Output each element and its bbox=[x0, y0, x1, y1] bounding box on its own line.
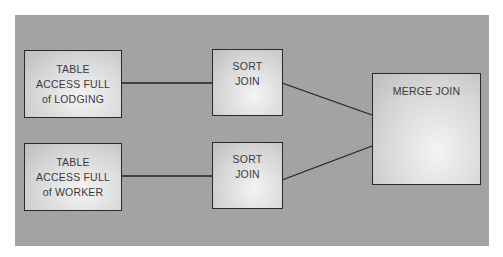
node-label-line: of LODGING bbox=[42, 93, 104, 105]
edge-sort1-to-merge bbox=[282, 83, 372, 115]
node-label-line: JOIN bbox=[235, 168, 260, 180]
node-label-line: ACCESS FULL bbox=[36, 78, 110, 90]
edge-sort2-to-merge bbox=[282, 146, 372, 180]
node-label-line: TABLE bbox=[56, 156, 89, 168]
node-table-access-lodging: TABLE ACCESS FULL of LODGING bbox=[24, 50, 122, 118]
node-sort-join-1: SORT JOIN bbox=[212, 49, 283, 116]
node-merge-join: MERGE JOIN bbox=[372, 73, 481, 185]
node-label-line: SORT bbox=[233, 153, 263, 165]
node-label-line: MERGE JOIN bbox=[393, 85, 460, 97]
node-table-access-worker: TABLE ACCESS FULL of WORKER bbox=[24, 143, 122, 211]
node-label-line: JOIN bbox=[235, 75, 260, 87]
node-label-line: of WORKER bbox=[43, 186, 104, 198]
node-label-line: TABLE bbox=[56, 63, 89, 75]
node-label-line: ACCESS FULL bbox=[36, 171, 110, 183]
node-sort-join-2: SORT JOIN bbox=[212, 142, 283, 209]
node-label-line: SORT bbox=[233, 60, 263, 72]
